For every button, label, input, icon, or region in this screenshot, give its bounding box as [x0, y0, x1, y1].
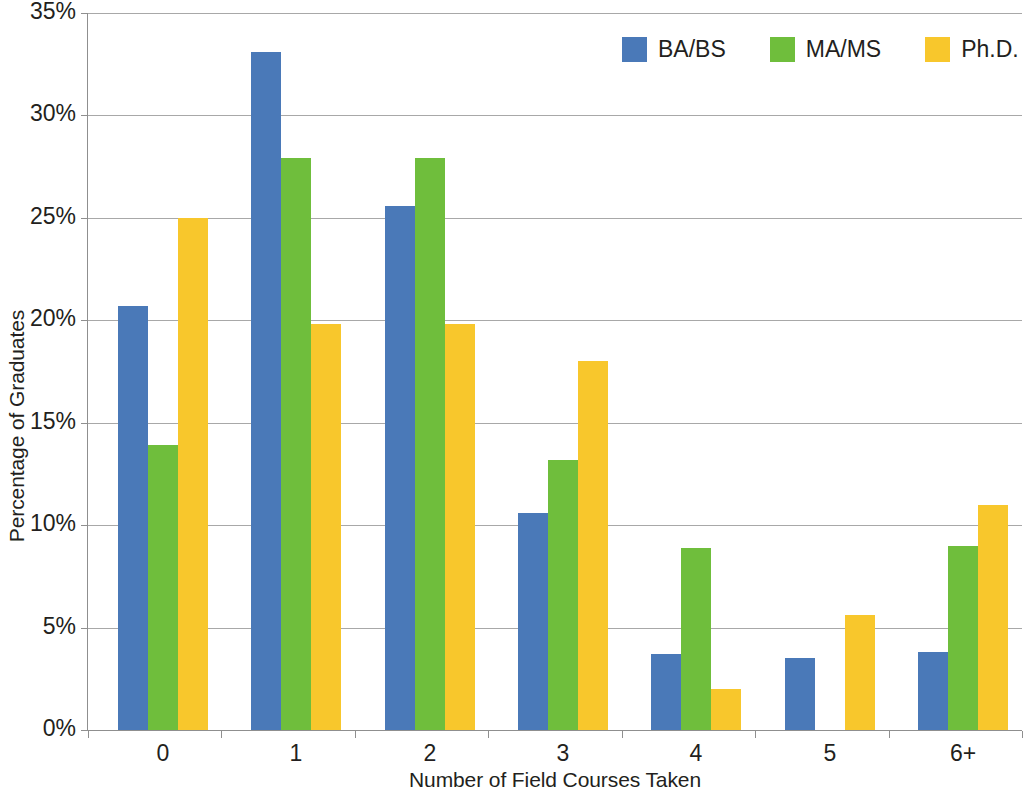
- bar-group: [518, 13, 608, 730]
- x-axis-tick-label: 6+: [923, 740, 1003, 767]
- bar-group: [651, 13, 741, 730]
- y-axis-tick-label: 35%: [0, 0, 76, 25]
- bar[interactable]: [651, 654, 681, 730]
- bar-group: [251, 13, 341, 730]
- y-axis-tick-label: 15%: [0, 408, 76, 435]
- chart-legend: BA/BSMA/MSPh.D.: [622, 36, 1019, 63]
- bar-chart: Percentage of Graduates 0%5%10%15%20%25%…: [0, 0, 1028, 794]
- bar[interactable]: [681, 548, 711, 730]
- bar[interactable]: [118, 306, 148, 730]
- y-axis-tick-label: 30%: [0, 100, 76, 127]
- x-axis-tick-mark: [88, 731, 89, 738]
- bar[interactable]: [311, 324, 341, 730]
- bar[interactable]: [445, 324, 475, 730]
- bar[interactable]: [918, 652, 948, 730]
- bar-group: [785, 13, 875, 730]
- bar[interactable]: [148, 445, 178, 730]
- x-axis-tick-mark: [622, 731, 623, 738]
- legend-item[interactable]: MA/MS: [770, 36, 881, 63]
- x-axis-tick-mark: [355, 731, 356, 738]
- bar[interactable]: [178, 218, 208, 730]
- bar[interactable]: [845, 615, 875, 730]
- y-axis-tick-mark: [81, 628, 88, 629]
- gridline: [88, 730, 1022, 731]
- y-axis-tick-mark: [81, 115, 88, 116]
- legend-swatch-icon: [622, 37, 647, 62]
- bar-group: [118, 13, 208, 730]
- x-axis-tick-mark: [755, 731, 756, 738]
- bar[interactable]: [785, 658, 815, 730]
- x-axis-tick-mark: [488, 731, 489, 738]
- legend-swatch-icon: [925, 37, 950, 62]
- bar[interactable]: [281, 158, 311, 730]
- x-axis-tick-label: 1: [256, 740, 336, 767]
- x-axis-tick-mark: [889, 731, 890, 738]
- legend-swatch-icon: [770, 37, 795, 62]
- x-axis-title: Number of Field Courses Taken: [88, 768, 1022, 792]
- bar-group: [385, 13, 475, 730]
- bar[interactable]: [251, 52, 281, 730]
- legend-item-label: Ph.D.: [961, 36, 1019, 63]
- y-axis-tick-mark: [81, 218, 88, 219]
- y-axis-tick-label: 20%: [0, 305, 76, 332]
- y-axis-tick-mark: [81, 525, 88, 526]
- bar[interactable]: [385, 206, 415, 730]
- y-axis-title-label: Percentage of Graduates: [5, 252, 29, 542]
- y-axis-tick-label: 5%: [0, 613, 76, 640]
- y-axis-tick-label: 10%: [0, 510, 76, 537]
- x-axis-tick-label: 0: [123, 740, 203, 767]
- y-axis-tick-label: 0%: [0, 715, 76, 742]
- legend-item[interactable]: Ph.D.: [925, 36, 1019, 63]
- bar[interactable]: [711, 689, 741, 730]
- legend-item-label: BA/BS: [658, 36, 726, 63]
- y-axis-tick-label: 25%: [0, 203, 76, 230]
- x-axis-tick-label: 5: [790, 740, 870, 767]
- bar[interactable]: [578, 361, 608, 730]
- bar[interactable]: [518, 513, 548, 730]
- legend-item-label: MA/MS: [806, 36, 881, 63]
- bar[interactable]: [978, 505, 1008, 730]
- legend-item[interactable]: BA/BS: [622, 36, 726, 63]
- bar[interactable]: [415, 158, 445, 730]
- bar[interactable]: [948, 546, 978, 730]
- y-axis-tick-mark: [81, 320, 88, 321]
- plot-area: [88, 13, 1022, 730]
- x-axis-tick-mark: [221, 731, 222, 738]
- bar-group: [918, 13, 1008, 730]
- x-axis-tick-label: 4: [656, 740, 736, 767]
- x-axis-tick-label: 3: [523, 740, 603, 767]
- y-axis-tick-mark: [81, 423, 88, 424]
- bar[interactable]: [548, 460, 578, 730]
- x-axis-tick-mark: [1022, 731, 1023, 738]
- x-axis-tick-label: 2: [390, 740, 470, 767]
- y-axis-tick-mark: [81, 730, 88, 731]
- y-axis-tick-mark: [81, 13, 88, 14]
